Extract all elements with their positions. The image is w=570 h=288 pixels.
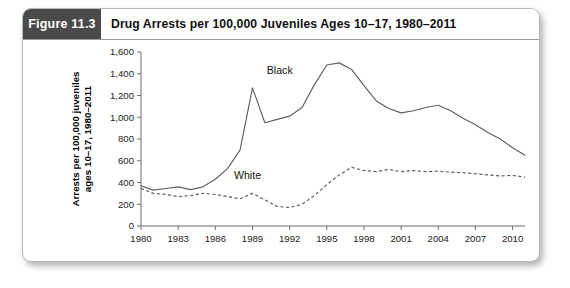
series-annotations: BlackWhite (234, 64, 293, 181)
x-tick-label: 1980 (130, 233, 151, 244)
y-tick-label: 200 (118, 199, 134, 210)
y-tick-label: 1,600 (110, 46, 134, 57)
y-axis-title-line: ages 10–17, 1980–2011 (82, 85, 93, 192)
x-tick-label: 2004 (428, 233, 450, 244)
y-tick-label: 1,000 (110, 112, 134, 123)
y-axis-title-line: Arrests per 100,000 juveniles (70, 71, 81, 207)
x-tick-label: 1992 (279, 233, 300, 244)
x-tick-label: 2001 (390, 233, 411, 244)
data-series-group (141, 63, 525, 208)
y-tick-label: 0 (129, 220, 134, 231)
y-tick-label: 1,400 (110, 68, 134, 79)
x-tick-label: 2010 (502, 233, 523, 244)
series-label-white: White (234, 169, 261, 181)
x-axis-tick-labels: 1980198319861989199219951998200120042007… (130, 233, 523, 244)
chart-plot-area: 02004006008001,0001,2001,4001,600 198019… (23, 40, 539, 260)
figure-title: Drug Arrests per 100,000 Juveniles Ages … (111, 9, 457, 39)
y-axis-ticks (137, 52, 141, 226)
y-tick-label: 400 (118, 177, 134, 188)
x-tick-label: 2007 (465, 233, 486, 244)
x-tick-label: 1998 (353, 233, 374, 244)
figure-header: Figure 11.3 Drug Arrests per 100,000 Juv… (23, 9, 539, 40)
y-axis-tick-labels: 02004006008001,0001,2001,4001,600 (110, 46, 134, 231)
y-axis-title: Arrests per 100,000 juvenilesages 10–17,… (70, 71, 93, 207)
line-chart: 02004006008001,0001,2001,4001,600 198019… (23, 40, 539, 260)
figure-number-badge: Figure 11.3 (23, 9, 101, 39)
y-tick-label: 1,200 (110, 90, 134, 101)
series-line-black (141, 63, 525, 190)
x-tick-label: 1983 (167, 233, 188, 244)
x-axis-ticks (141, 226, 513, 230)
x-tick-label: 1995 (316, 233, 337, 244)
figure-card: Figure 11.3 Drug Arrests per 100,000 Juv… (22, 8, 540, 262)
x-tick-label: 1986 (205, 233, 226, 244)
y-tick-label: 800 (118, 133, 134, 144)
series-label-black: Black (267, 64, 294, 76)
x-tick-label: 1989 (242, 233, 263, 244)
y-tick-label: 600 (118, 155, 134, 166)
